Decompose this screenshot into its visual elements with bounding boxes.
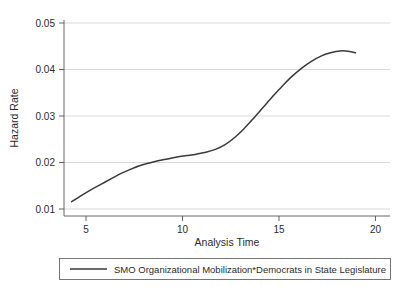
legend-label-0: SMO Organizational Mobilization*Democrat…	[114, 264, 386, 275]
x-tick-label-0: 5	[83, 224, 89, 235]
y-axis-title: Hazard Rate	[8, 88, 20, 147]
chart-canvas: 0.01 0.02 0.03 0.04 0.05 5 10 15 20 Anal…	[0, 0, 401, 287]
y-tick-label-3: 0.04	[36, 64, 56, 75]
x-axis: 5 10 15 20	[64, 216, 390, 235]
y-tick-label-2: 0.03	[36, 111, 56, 122]
y-axis: 0.01 0.02 0.03 0.04 0.05	[36, 18, 64, 217]
y-tick-label-1: 0.02	[36, 157, 56, 168]
x-tick-label-1: 10	[177, 224, 189, 235]
hazard-rate-chart: 0.01 0.02 0.03 0.04 0.05 5 10 15 20 Anal…	[0, 0, 401, 287]
x-tick-label-3: 20	[370, 224, 382, 235]
x-axis-title: Analysis Time	[195, 236, 260, 248]
y-tick-label-0: 0.01	[36, 204, 56, 215]
x-tick-label-2: 15	[273, 224, 285, 235]
series-line-smo-mobilization	[72, 51, 356, 202]
y-tick-label-4: 0.05	[36, 18, 56, 29]
legend: SMO Organizational Mobilization*Democrat…	[60, 259, 391, 280]
series-group	[72, 51, 356, 202]
